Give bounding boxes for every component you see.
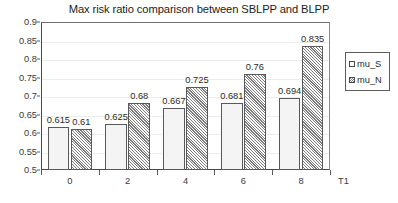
legend-label: mu_S <box>357 59 381 69</box>
chart-title: Max risk ratio comparison between SBLPP … <box>0 3 398 15</box>
bar-mu_S-2[interactable] <box>105 124 127 170</box>
y-axis-tick <box>37 133 40 134</box>
x-axis-tick <box>41 170 42 175</box>
bar-value-label: 0.835 <box>301 34 324 44</box>
bar-value-label: 0.76 <box>246 62 264 72</box>
y-axis-tick <box>37 77 40 78</box>
legend-item-mu_S[interactable]: mu_S <box>349 56 387 72</box>
bars-layer: 0.6150.610.6250.680.6670.7250.6810.760.6… <box>41 22 330 170</box>
y-axis-tick-label: 0.6 <box>0 128 37 138</box>
bar-value-label: 0.681 <box>220 91 243 101</box>
bar-value-label: 0.694 <box>278 86 301 96</box>
y-axis-tick-label: 0.7 <box>0 91 37 101</box>
y-axis-tick <box>37 96 40 97</box>
bar-mu_N-2[interactable] <box>128 103 150 170</box>
x-axis-tick <box>330 170 331 175</box>
x-axis-tick <box>99 170 100 175</box>
bar-mu_N-8[interactable] <box>302 46 324 170</box>
y-axis-tick-label: 0.65 <box>0 110 37 120</box>
legend-swatch-icon <box>349 61 355 67</box>
x-axis-tick <box>157 170 158 175</box>
bar-value-label: 0.625 <box>105 112 128 122</box>
bar-chart: Max risk ratio comparison between SBLPP … <box>0 0 398 203</box>
y-axis-tick <box>37 151 40 152</box>
x-axis-tick-label: 0 <box>67 176 72 186</box>
x-axis-tick-label: 6 <box>241 176 246 186</box>
y-axis-tick-label: 0.9 <box>0 17 37 27</box>
y-axis-tick <box>37 114 40 115</box>
x-axis-tick-label: 8 <box>299 176 304 186</box>
y-axis-tick <box>37 40 40 41</box>
bar-value-label: 0.725 <box>185 75 208 85</box>
x-axis-tick-label: 4 <box>183 176 188 186</box>
y-axis-tick-label: 0.75 <box>0 73 37 83</box>
x-axis-title: T1 <box>338 176 349 186</box>
y-axis-tick-label: 0.55 <box>0 147 37 157</box>
bar-mu_S-0[interactable] <box>48 127 70 170</box>
bar-mu_S-6[interactable] <box>221 103 243 170</box>
y-axis-tick-label: 0.5 <box>0 165 37 175</box>
bar-value-label: 0.68 <box>130 91 148 101</box>
bar-value-label: 0.667 <box>162 96 185 106</box>
x-axis: 02468 <box>41 176 330 190</box>
bar-mu_S-8[interactable] <box>279 98 301 170</box>
bar-mu_S-4[interactable] <box>163 108 185 170</box>
y-axis-tick <box>37 170 40 171</box>
legend-item-mu_N[interactable]: mu_N <box>349 72 387 88</box>
legend-swatch-icon <box>349 77 355 83</box>
y-axis-tick-label: 0.85 <box>0 36 37 46</box>
y-axis-tick <box>37 59 40 60</box>
bar-mu_N-4[interactable] <box>186 87 208 170</box>
x-axis-tick <box>214 170 215 175</box>
bar-mu_N-0[interactable] <box>71 129 93 170</box>
y-axis-tick <box>37 22 40 23</box>
legend: mu_Smu_N <box>345 52 390 91</box>
x-axis-tick <box>272 170 273 175</box>
y-axis-tick-label: 0.8 <box>0 54 37 64</box>
bar-value-label: 0.615 <box>47 115 70 125</box>
legend-label: mu_N <box>357 75 382 85</box>
x-axis-tick-label: 2 <box>125 176 130 186</box>
bar-value-label: 0.61 <box>72 117 90 127</box>
y-axis: 0.90.850.80.750.70.650.60.550.5 <box>0 22 37 170</box>
bar-mu_N-6[interactable] <box>244 74 266 170</box>
x-axis-ticks <box>41 170 330 175</box>
